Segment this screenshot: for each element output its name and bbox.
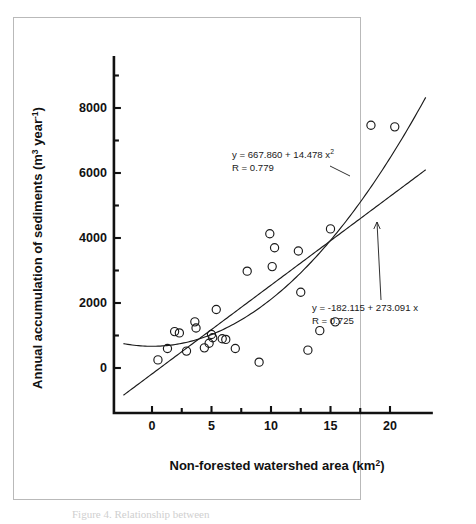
x-tick-label: 10 (264, 419, 278, 433)
quadratic-annotation-leader (330, 166, 350, 176)
x-tick-label: 15 (324, 419, 338, 433)
x-tick-label: 20 (383, 419, 397, 433)
data-point (154, 356, 162, 364)
data-point (243, 267, 251, 275)
y-tick-label: 6000 (79, 166, 107, 180)
data-point (316, 327, 324, 335)
y-tick-label: 4000 (79, 231, 107, 245)
data-point (192, 324, 200, 332)
data-point (200, 344, 208, 352)
quadratic-annotation-line1: y = 667.860 + 14.478 x2 (232, 148, 334, 160)
x-axis-title: Non-forested watershed area (km2) (170, 458, 385, 474)
data-point (212, 305, 220, 313)
data-point (326, 225, 334, 233)
axis-labels-group: 0200040006000800005101520Non-forested wa… (30, 101, 397, 473)
y-tick-label: 8000 (79, 101, 107, 115)
annotations-group: y = 667.860 + 14.478 x2R = 0.779y = -182… (232, 148, 418, 326)
data-point (175, 329, 183, 337)
chart-canvas: y = 667.860 + 14.478 x2R = 0.779y = -182… (0, 0, 476, 524)
scatter-chart: y = 667.860 + 14.478 x2R = 0.779y = -182… (0, 0, 476, 524)
data-point (297, 288, 305, 296)
data-point (304, 346, 312, 354)
data-point (294, 247, 302, 255)
data-point (391, 123, 399, 131)
caption-strip: Figure 4. Relationship between (0, 502, 476, 524)
y-axis-title: Annual accumulation of sediments (m3 yea… (30, 107, 46, 389)
data-point (270, 244, 278, 252)
data-point (268, 263, 276, 271)
figure-caption: Figure 4. Relationship between (72, 508, 209, 520)
data-point (266, 230, 274, 238)
fit-curves-group (123, 97, 425, 395)
y-tick-label: 0 (100, 361, 107, 375)
linear-annotation-line2: R = 0.725 (312, 315, 354, 326)
data-point (367, 121, 375, 129)
data-point (231, 344, 239, 352)
quadratic-annotation-line2: R = 0.779 (232, 162, 274, 173)
linear-annotation-leader (377, 222, 381, 300)
linear-annotation-line1: y = -182.115 + 273.091 x (312, 302, 418, 313)
y-tick-label: 2000 (79, 296, 107, 310)
x-tick-label: 5 (208, 419, 215, 433)
data-point (255, 358, 263, 366)
x-tick-label: 0 (149, 419, 156, 433)
